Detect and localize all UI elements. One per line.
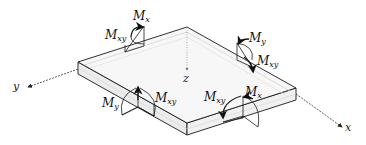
plate-moment-diagram: y x z Mx Mxy My Mxy My Mxy — [0, 0, 366, 145]
moment-label-my-front: My — [101, 96, 119, 111]
moment-label-mxy-back-right: Mxy — [256, 54, 279, 69]
z-axis-label: z — [182, 72, 189, 85]
x-axis — [296, 94, 342, 127]
moment-label-mx: Mx — [132, 9, 150, 24]
x-axis-label: x — [345, 121, 352, 134]
moment-label-my: My — [248, 31, 266, 46]
y-axis — [28, 69, 78, 87]
y-axis-label: y — [12, 80, 20, 93]
moment-label-mxy: Mxy — [104, 28, 127, 43]
